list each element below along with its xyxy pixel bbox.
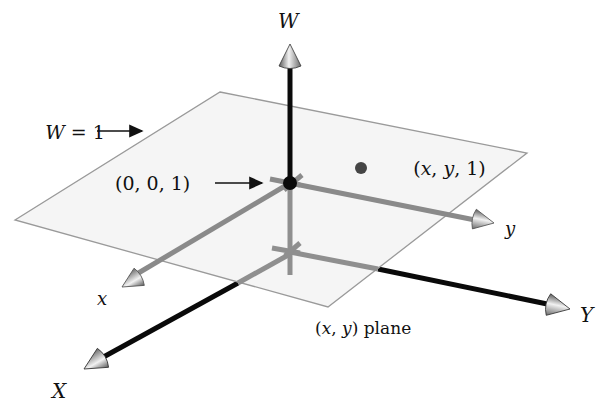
Y-axis-line bbox=[378, 269, 552, 305]
xy-plane-x: x bbox=[322, 318, 332, 338]
w-plane-equation-label: W = 1 bbox=[15, 121, 123, 143]
xy1-sep: , bbox=[431, 157, 443, 179]
xy1-y: y bbox=[442, 157, 454, 179]
xy1-open: ( bbox=[413, 157, 420, 179]
W-axis-label: W bbox=[278, 9, 300, 33]
xy1-rest: , 1) bbox=[454, 157, 486, 179]
xy-plane-sep: , bbox=[331, 318, 342, 338]
y-axis-label: y bbox=[504, 218, 516, 239]
xy-plane-rest: ) plane bbox=[352, 318, 412, 338]
w-plane-equation-var: W bbox=[45, 121, 66, 143]
Y-axis-arrowhead-icon bbox=[544, 293, 572, 320]
X-axis-label: X bbox=[50, 379, 67, 403]
xy1-x: x bbox=[421, 157, 432, 179]
origin-point-marker bbox=[283, 176, 297, 190]
W-axis-arrowhead-icon bbox=[279, 44, 301, 69]
y-axis-arrowhead-icon bbox=[470, 209, 495, 233]
xy1-point-marker bbox=[355, 162, 367, 174]
X-axis-line bbox=[98, 283, 238, 360]
xy-plane-open: ( bbox=[315, 318, 322, 338]
X-axis-arrowhead-icon bbox=[78, 347, 110, 378]
xy-plane-y: y bbox=[341, 318, 352, 338]
w-plane-equation-rest: = 1 bbox=[65, 121, 105, 143]
xy1-point-label: (x, y, 1) bbox=[383, 157, 504, 179]
Y-axis-label: Y bbox=[580, 303, 595, 327]
homogeneous-coordinates-diagram: W X Y x y W = 1 (0, 0, 1) (x, y, 1) (x, … bbox=[0, 0, 605, 410]
x-axis-label: x bbox=[97, 288, 107, 309]
origin-point-label: (0, 0, 1) bbox=[115, 172, 190, 194]
xy-plane-label: (x, y) plane bbox=[288, 318, 427, 338]
